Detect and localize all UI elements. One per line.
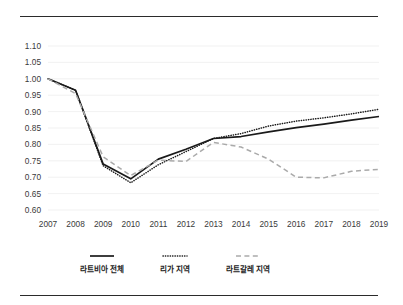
x-axis-tick-label: 2009 (94, 219, 113, 229)
legend-item[interactable]: 라트갈레 지역 (226, 252, 270, 284)
legend-item-label: 라트비아 전체 (80, 263, 124, 274)
y-axis-tick-label: 0.70 (25, 172, 42, 182)
y-axis-tick-label: 0.65 (25, 189, 42, 199)
y-axis-tick-label: 0.60 (25, 205, 42, 215)
legend-item[interactable]: 리가 지역 (160, 252, 190, 284)
line-chart-svg: 1.101.051.000.950.900.850.800.750.700.65… (0, 24, 403, 249)
x-axis-tick-label: 2018 (342, 219, 361, 229)
y-axis-tick-label: 1.05 (25, 57, 42, 67)
x-axis-tick-label: 2015 (259, 219, 278, 229)
legend-swatch-dotted-icon (162, 252, 188, 260)
x-axis-tick-label: 2011 (149, 219, 167, 229)
legend-swatch-solid-icon (89, 252, 115, 260)
y-axis-tick-label: 0.80 (25, 139, 42, 149)
x-axis-tick-label: 2007 (39, 219, 58, 229)
x-axis-tick-label: 2019 (370, 219, 389, 229)
y-axis-tick-label: 1.00 (25, 74, 42, 84)
series-line-solid (48, 79, 379, 179)
y-axis-tick-label: 0.85 (25, 123, 42, 133)
y-axis-tick-label: 0.90 (25, 107, 42, 117)
bottom-divider-rule (20, 295, 378, 296)
y-axis-tick-labels: 1.101.051.000.950.900.850.800.750.700.65… (25, 41, 42, 215)
x-axis-tick-label: 2013 (204, 219, 223, 229)
x-axis-tick-label: 2008 (66, 219, 85, 229)
plot-area-container: 1.101.051.000.950.900.850.800.750.700.65… (0, 24, 403, 249)
legend-item[interactable]: 라트비아 전체 (80, 252, 124, 284)
top-divider-rule (20, 16, 378, 17)
legend-item-label: 라트갈레 지역 (226, 263, 270, 274)
gridlines-group (48, 46, 379, 210)
legend-item-label: 리가 지역 (160, 263, 190, 274)
chart-figure: 1.101.051.000.950.900.850.800.750.700.65… (0, 0, 403, 305)
x-axis-tick-label: 2012 (177, 219, 196, 229)
x-axis-tick-label: 2014 (232, 219, 251, 229)
y-axis-tick-label: 1.10 (25, 41, 42, 51)
y-axis-tick-label: 0.95 (25, 90, 42, 100)
x-axis-tick-label: 2010 (122, 219, 141, 229)
y-axis-tick-label: 0.75 (25, 156, 42, 166)
series-lines-group (48, 79, 379, 183)
chart-legend: 라트비아 전체리가 지역라트갈레 지역 (0, 252, 403, 284)
legend-swatch-dashed-icon (235, 252, 261, 260)
x-axis-tick-label: 2016 (287, 219, 306, 229)
x-axis-tick-labels: 2007200820092010201120122013201420152016… (39, 219, 389, 229)
x-axis-tick-label: 2017 (315, 219, 334, 229)
series-line-dotted (48, 79, 379, 183)
